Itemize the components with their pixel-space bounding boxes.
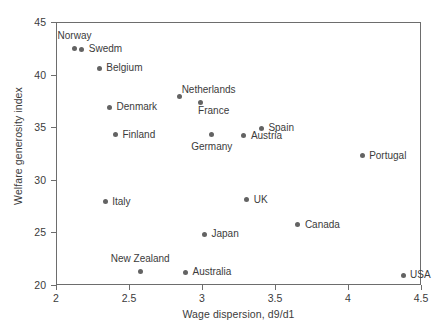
x-tick-mark	[421, 285, 422, 290]
data-point-label: Canada	[305, 220, 340, 230]
x-tick-label: 4	[328, 292, 368, 304]
data-point-label: Finland	[122, 130, 155, 140]
x-tick-mark	[202, 285, 203, 290]
data-point[interactable]	[113, 132, 118, 137]
x-tick-mark	[56, 285, 57, 290]
y-tick-label: 45	[6, 16, 46, 28]
x-tick-label: 4.5	[401, 292, 435, 304]
data-point[interactable]	[401, 273, 406, 278]
y-tick-mark	[51, 232, 56, 233]
y-tick-label: 35	[6, 121, 46, 133]
data-point[interactable]	[103, 199, 108, 204]
data-point[interactable]	[209, 132, 214, 137]
x-tick-mark	[275, 285, 276, 290]
x-axis-title: Wage dispersion, d9/d1	[56, 308, 421, 320]
x-tick-label: 2.5	[109, 292, 149, 304]
data-point[interactable]	[183, 270, 188, 275]
y-tick-label: 30	[6, 174, 46, 186]
y-tick-mark	[51, 127, 56, 128]
y-tick-label: 20	[6, 279, 46, 291]
data-point-label: Norway	[58, 31, 92, 41]
x-tick-mark	[348, 285, 349, 290]
y-tick-label: 40	[6, 69, 46, 81]
data-point[interactable]	[72, 46, 77, 51]
data-point-label: France	[198, 106, 229, 116]
data-point-label: Germany	[191, 142, 232, 152]
data-point-label: Australia	[192, 267, 231, 277]
data-point-label: Italy	[112, 197, 130, 207]
data-point-label: USA	[410, 270, 431, 280]
plot-area: NorwaySwedmBelgiumDenmarkFinlandItalyNew…	[56, 22, 421, 285]
x-tick-mark	[129, 285, 130, 290]
data-point-label: Netherlands	[182, 85, 236, 95]
y-tick-mark	[51, 22, 56, 23]
data-point[interactable]	[107, 105, 112, 110]
data-point-label: Spain	[268, 123, 294, 133]
data-point[interactable]	[244, 197, 249, 202]
x-tick-label: 2	[36, 292, 76, 304]
data-point[interactable]	[138, 269, 143, 274]
data-point-label: New Zealand	[111, 254, 170, 264]
data-point[interactable]	[360, 153, 365, 158]
data-point[interactable]	[97, 66, 102, 71]
data-point-label: Belgium	[106, 63, 142, 73]
data-point-label: UK	[254, 195, 268, 205]
data-point[interactable]	[259, 126, 264, 131]
data-point[interactable]	[241, 133, 246, 138]
data-point-label: Portugal	[369, 151, 406, 161]
data-point[interactable]	[202, 232, 207, 237]
y-tick-mark	[51, 75, 56, 76]
y-tick-label: 25	[6, 226, 46, 238]
data-point[interactable]	[177, 94, 182, 99]
data-point-label: Swedm	[89, 44, 122, 54]
y-tick-mark	[51, 180, 56, 181]
data-point[interactable]	[295, 222, 300, 227]
data-point-label: Japan	[211, 229, 238, 239]
data-point[interactable]	[79, 47, 84, 52]
data-point-label: Denmark	[117, 102, 158, 112]
x-tick-label: 3	[182, 292, 222, 304]
scatter-plot-figure: Welfare generosity index NorwaySwedmBelg…	[0, 0, 435, 331]
x-tick-label: 3.5	[255, 292, 295, 304]
